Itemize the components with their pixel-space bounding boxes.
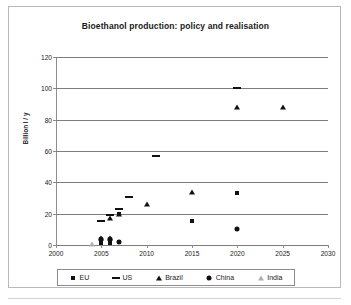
x-tick-mark [101, 245, 102, 248]
legend-label: Brazil [165, 274, 183, 281]
legend-label: US [122, 274, 132, 281]
data-point-china [235, 226, 240, 231]
y-tick-label: 40 [45, 179, 52, 186]
y-tick-mark [53, 88, 56, 89]
x-tick-label: 2010 [139, 250, 154, 257]
legend-label: EU [80, 274, 90, 281]
legend-marker-icon [112, 274, 119, 281]
page-bottom-rule [8, 298, 341, 299]
legend-entry-china: China [206, 274, 234, 281]
data-point-brazil [280, 105, 286, 110]
y-tick-label: 120 [41, 54, 52, 61]
legend-marker-icon [70, 274, 77, 281]
data-point-china [99, 236, 104, 241]
data-point-china [117, 239, 122, 244]
y-tick-label: 80 [45, 116, 52, 123]
data-point-us [97, 220, 105, 222]
data-point-brazil [107, 216, 113, 221]
gridline [56, 57, 328, 58]
x-tick-label: 2030 [321, 250, 336, 257]
data-point-us [233, 87, 241, 89]
data-point-us [115, 208, 123, 210]
legend-entry-brazil: Brazil [155, 274, 183, 281]
data-point-eu [190, 219, 194, 223]
legend-marker-icon [155, 274, 162, 281]
legend-entry-eu: EU [70, 274, 90, 281]
data-point-us [152, 155, 160, 157]
figure-frame: Bioethanol production: policy and realis… [8, 6, 341, 288]
gridline [56, 88, 328, 89]
x-tick-mark [192, 245, 193, 248]
x-tick-mark [56, 245, 57, 248]
legend-marker-icon [257, 274, 264, 281]
legend-marker-icon [206, 274, 213, 281]
y-tick-mark [53, 182, 56, 183]
x-tick-label: 2015 [185, 250, 200, 257]
x-tick-label: 2025 [275, 250, 290, 257]
y-tick-label: 20 [45, 210, 52, 217]
legend-entry-us: US [112, 274, 132, 281]
y-tick-label: 60 [45, 148, 52, 155]
data-point-eu [235, 191, 239, 195]
x-tick-label: 2000 [49, 250, 64, 257]
legend-label: India [267, 274, 282, 281]
gridline [56, 182, 328, 183]
data-point-eu [108, 241, 112, 245]
y-tick-mark [53, 120, 56, 121]
x-tick-label: 2020 [230, 250, 245, 257]
y-axis-title: Billion l / y [22, 99, 29, 159]
data-point-us [125, 196, 133, 198]
plot-area: 020406080100120 200020052010201520202025… [56, 57, 328, 245]
chart-title: Bioethanol production: policy and realis… [9, 21, 342, 31]
x-tick-label: 2005 [94, 250, 109, 257]
data-point-india [89, 242, 95, 247]
data-point-eu [99, 241, 103, 245]
data-point-brazil [144, 202, 150, 207]
data-point-brazil [234, 105, 240, 110]
legend-entry-india: India [257, 274, 282, 281]
x-tick-mark [328, 245, 329, 248]
gridline [56, 120, 328, 121]
x-tick-mark [147, 245, 148, 248]
x-tick-mark [283, 245, 284, 248]
legend-label: China [216, 274, 234, 281]
data-point-brazil [189, 189, 195, 194]
chart-legend: EUUSBrazilChinaIndia [57, 269, 295, 286]
y-tick-mark [53, 151, 56, 152]
y-tick-mark [53, 214, 56, 215]
y-tick-label: 0 [48, 242, 52, 249]
gridline [56, 214, 328, 215]
data-point-brazil [116, 212, 122, 217]
x-tick-mark [237, 245, 238, 248]
y-tick-label: 100 [41, 85, 52, 92]
data-point-china [108, 236, 113, 241]
gridline [56, 151, 328, 152]
y-tick-mark [53, 57, 56, 58]
